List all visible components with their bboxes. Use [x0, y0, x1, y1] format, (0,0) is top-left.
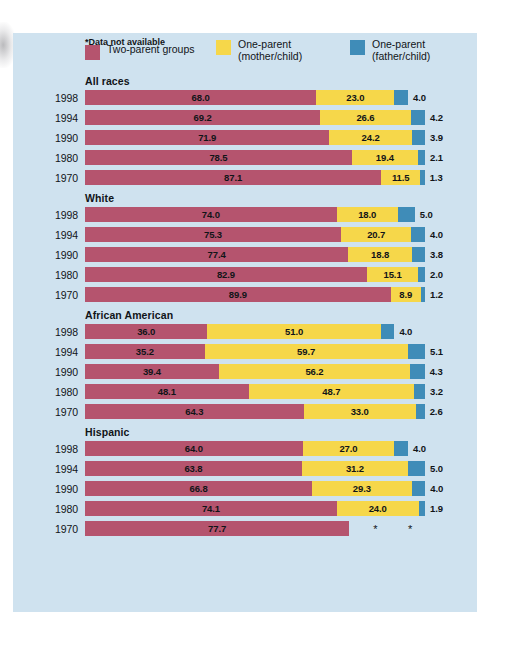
bar-value-one-parent-father: 4.0	[430, 227, 443, 242]
bar-segment-one-parent-father	[418, 267, 425, 282]
chart-legend: Two-parent groups One-parent (mother/chi…	[13, 33, 477, 75]
chart-row: 199066.829.34.0	[13, 481, 477, 496]
bar-segment-one-parent-father	[414, 384, 425, 399]
bar-segment-two-parent: 77.4	[85, 247, 348, 262]
bar-value-one-parent-mother: 56.2	[305, 366, 323, 377]
chart-group: All races199868.023.04.0199469.226.64.21…	[13, 75, 477, 185]
bar-value-one-parent-mother: 24.0	[369, 503, 387, 514]
bar-value-two-parent: 71.9	[198, 132, 216, 143]
bar-segment-two-parent: 64.0	[85, 441, 303, 456]
bar-value-two-parent: 36.0	[137, 326, 155, 337]
chart-row-year: 1970	[13, 289, 85, 301]
bar-segment-one-parent-mother: 26.6	[320, 110, 410, 125]
bar-segment-one-parent-father	[394, 441, 408, 456]
bar-segment-one-parent-mother: 23.0	[316, 90, 394, 105]
bar-value-two-parent: 39.4	[143, 366, 161, 377]
bar-value-one-parent-mother: 29.3	[353, 483, 371, 494]
bar-segment-two-parent: 71.9	[85, 130, 329, 145]
legend-label-one-parent-mother: One-parent (mother/child)	[238, 39, 302, 62]
bar-segment-two-parent: 78.5	[85, 150, 352, 165]
bar-value-one-parent-father: *	[408, 521, 412, 536]
legend-label-two-parent: Two-parent groups	[107, 44, 195, 56]
chart-group: African American199836.051.04.0199435.25…	[13, 309, 477, 419]
bar-value-one-parent-father: 1.2	[430, 287, 443, 302]
bar-segment-one-parent-mother: 48.7	[249, 384, 415, 399]
bar-segment-two-parent: 68.0	[85, 90, 316, 105]
bar-segment-one-parent-father	[381, 324, 395, 339]
chart-group-title: All races	[85, 75, 477, 87]
bar-segment-one-parent-mother: 24.0	[337, 501, 419, 516]
chart-bar-track: 35.259.75.1	[85, 344, 425, 359]
chart-row: 199077.418.83.8	[13, 247, 477, 262]
chart-row: 197089.98.91.2	[13, 287, 477, 302]
bar-value-two-parent: 64.3	[185, 406, 203, 417]
bar-value-one-parent-father: 4.0	[413, 441, 426, 456]
legend-swatch-two-parent-icon	[85, 45, 100, 60]
chart-group: Hispanic199864.027.04.0199463.831.25.019…	[13, 426, 477, 536]
bar-segment-two-parent: 36.0	[85, 324, 207, 339]
chart-row: 197064.333.02.6	[13, 404, 477, 419]
bar-value-two-parent: 74.0	[202, 209, 220, 220]
bar-segment-two-parent: 74.1	[85, 501, 337, 516]
bar-value-one-parent-father: 5.0	[420, 207, 433, 222]
bar-segment-two-parent: 89.9	[85, 287, 391, 302]
bar-segment-one-parent-father	[398, 207, 415, 222]
chart-row: 199868.023.04.0	[13, 90, 477, 105]
bar-value-two-parent: 35.2	[136, 346, 154, 357]
chart-row-year: 1980	[13, 269, 85, 281]
bar-segment-two-parent: 75.3	[85, 227, 341, 242]
chart-row-year: 1970	[13, 523, 85, 535]
bar-value-two-parent: 78.5	[209, 152, 227, 163]
bar-value-two-parent: 77.7	[208, 523, 226, 534]
bar-segment-one-parent-father	[420, 170, 424, 185]
bar-segment-one-parent-father	[411, 227, 425, 242]
chart-row-year: 1998	[13, 326, 85, 338]
bar-segment-one-parent-father	[412, 247, 425, 262]
bar-segment-two-parent: 69.2	[85, 110, 320, 125]
bar-value-one-parent-mother: 18.8	[371, 249, 389, 260]
chart-row: 199874.018.05.0	[13, 207, 477, 222]
bar-value-one-parent-mother: 18.0	[358, 209, 376, 220]
bar-segment-one-parent-mother: 19.4	[352, 150, 418, 165]
bar-value-two-parent: 77.4	[208, 249, 226, 260]
bar-segment-one-parent-father	[408, 461, 425, 476]
chart-row: 199463.831.25.0	[13, 461, 477, 476]
bar-value-two-parent: 87.1	[224, 172, 242, 183]
chart-row-year: 1990	[13, 249, 85, 261]
bar-value-one-parent-mother: 31.2	[346, 463, 364, 474]
chart-group-title: White	[85, 192, 477, 204]
chart-group-title: Hispanic	[85, 426, 477, 438]
chart-bar-track: 74.018.05.0	[85, 207, 425, 222]
legend-swatch-one-parent-mother-icon	[216, 40, 231, 55]
bar-value-one-parent-father: 3.2	[430, 384, 443, 399]
bar-segment-one-parent-father	[419, 501, 425, 516]
bar-value-two-parent: 63.8	[184, 463, 202, 474]
chart-bar-track: 69.226.64.2	[85, 110, 425, 125]
bar-segment-one-parent-mother: 29.3	[312, 481, 412, 496]
bar-segment-one-parent-mother: 51.0	[207, 324, 380, 339]
bar-segment-two-parent: 66.8	[85, 481, 312, 496]
bar-segment-two-parent: 48.1	[85, 384, 249, 399]
chart-bar-track: 48.148.73.2	[85, 384, 425, 399]
chart-bar-track: 39.456.24.3	[85, 364, 425, 379]
bar-segment-one-parent-father	[418, 150, 425, 165]
bar-value-one-parent-mother: 15.1	[383, 269, 401, 280]
chart-bar-track: 89.98.91.2	[85, 287, 425, 302]
chart-group: White199874.018.05.0199475.320.74.019907…	[13, 192, 477, 302]
bar-value-two-parent: 48.1	[158, 386, 176, 397]
legend-swatch-one-parent-father-icon	[350, 40, 365, 55]
chart-groups: All races199868.023.04.0199469.226.64.21…	[13, 75, 477, 543]
chart-panel: Two-parent groups One-parent (mother/chi…	[13, 33, 477, 612]
bar-value-one-parent-mother: 24.2	[362, 132, 380, 143]
bar-value-one-parent-father: 2.0	[430, 267, 443, 282]
bar-value-one-parent-mother: 8.9	[399, 289, 412, 300]
chart-bar-track: 66.829.34.0	[85, 481, 425, 496]
bar-value-two-parent: 66.8	[190, 483, 208, 494]
bar-value-one-parent-father: 2.1	[430, 150, 443, 165]
bar-value-two-parent: 68.0	[192, 92, 210, 103]
chart-row-year: 1994	[13, 229, 85, 241]
bar-value-one-parent-mother: 27.0	[339, 443, 357, 454]
bar-segment-two-parent: 35.2	[85, 344, 205, 359]
chart-row-year: 1990	[13, 483, 85, 495]
chart-row-year: 1998	[13, 209, 85, 221]
